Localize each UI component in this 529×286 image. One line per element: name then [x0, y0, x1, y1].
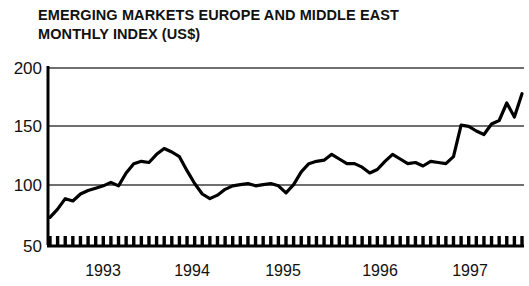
y-tick-label-100: 100: [14, 176, 42, 195]
y-axis-tick-labels: 200 150 100 50: [14, 59, 42, 256]
x-tick-label-1997: 1997: [452, 262, 488, 279]
y-tick-label-50: 50: [23, 237, 42, 256]
line-chart-plot: 200 150 100 50 1993 1994 1995 1996 1997: [0, 0, 529, 286]
x-axis-tick-labels: 1993 1994 1995 1996 1997: [85, 262, 488, 279]
index-series-line: [50, 94, 522, 218]
x-tick-label-1995: 1995: [265, 262, 301, 279]
x-axis-minor-ticks: [50, 236, 522, 245]
y-tick-label-150: 150: [14, 117, 42, 136]
x-tick-label-1996: 1996: [362, 262, 398, 279]
gridlines: [47, 68, 524, 185]
x-tick-label-1993: 1993: [85, 262, 121, 279]
chart-figure: EMERGING MARKETS EUROPE AND MIDDLE EAST …: [0, 0, 529, 286]
y-tick-label-200: 200: [14, 59, 42, 78]
x-tick-label-1994: 1994: [174, 262, 210, 279]
